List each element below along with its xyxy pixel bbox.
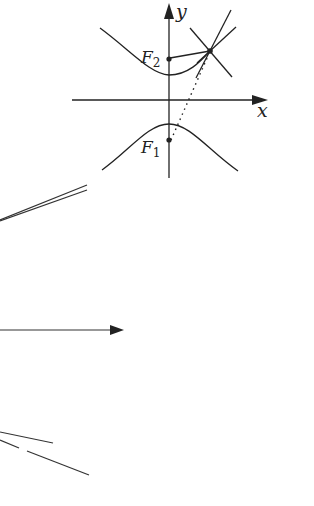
line-through-point [197,27,236,63]
fragment-line-lower-2b [27,451,89,475]
focus-F2-dot [166,56,171,61]
fragment-line-lower-1 [0,432,53,443]
hyperbola-figure [72,3,268,178]
fragment-line-upper-2 [0,190,87,221]
point-on-hyperbola-dot [207,48,213,54]
x-axis-label: x [257,99,268,121]
y-axis-arrowhead-icon [164,3,174,19]
tangent-line [196,10,231,78]
diagram-canvas: y x F2 F1 [0,0,314,506]
focus-upper-label: F2 [140,47,160,70]
focus-F1-dot [166,137,171,142]
partial-figure-fragments [0,185,124,475]
fragment-line-lower-2a [0,440,19,448]
lower-hyperbola-branch [102,124,238,171]
focus-lower-label: F1 [140,137,160,160]
fragment-arrowhead-icon [110,325,124,335]
fragment-line-upper-1 [0,185,87,220]
y-axis-label: y [175,0,187,22]
